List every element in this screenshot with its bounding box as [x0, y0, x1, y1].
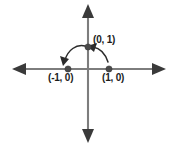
coordinate-plane-canvas [0, 0, 175, 149]
coordinate-plane-figure: (0, 1) (-1, 0) (1, 0) [0, 0, 175, 149]
rotation-arc-right [93, 47, 108, 62]
y-axis-up-arrowhead [82, 4, 94, 18]
rotation-arc-left-arrowhead [60, 56, 69, 66]
point-label-1-0: (1, 0) [102, 73, 124, 83]
y-axis-down-arrowhead [82, 129, 94, 143]
x-axis-right-arrowhead [152, 63, 166, 75]
point-label-neg1-0: (-1, 0) [48, 73, 73, 83]
x-axis-left-arrowhead [12, 63, 26, 75]
rotation-arc-left [65, 46, 85, 60]
point-label-0-1: (0, 1) [93, 35, 115, 45]
point-0-1-dot [85, 44, 91, 50]
